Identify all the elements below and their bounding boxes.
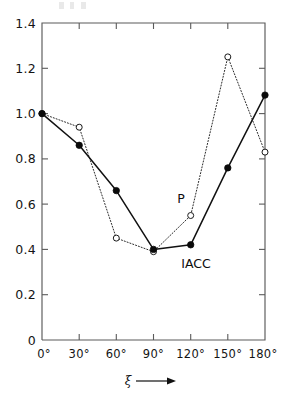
y-tick-label-0-6: 0.6 <box>15 197 36 212</box>
y-tick-label-1-2: 1.2 <box>15 61 36 76</box>
x-tick-label-90: 90° <box>143 347 164 361</box>
x-tick-label-0: 0° <box>37 347 51 361</box>
x-tick-label-180: 180° <box>249 347 278 361</box>
series-p-point-150 <box>225 54 231 60</box>
series-p-point-180 <box>262 149 268 155</box>
y-tick-label-0-2: 0.2 <box>15 287 36 302</box>
series-iacc-point-30 <box>76 142 82 148</box>
series-label-p: P <box>177 191 185 206</box>
series-iacc-point-150 <box>225 165 231 171</box>
series-iacc-line <box>42 95 265 249</box>
series-iacc-point-180 <box>262 92 268 98</box>
series-p-point-60 <box>113 235 119 241</box>
x-axis-ticks <box>79 23 228 340</box>
y-axis-tick-labels: 1.4 1.2 1.0 0.8 0.6 0.4 0.2 0 <box>15 16 36 348</box>
y-tick-label-0-8: 0.8 <box>15 151 36 166</box>
series-iacc-point-90 <box>150 246 156 252</box>
y-tick-label-1-4: 1.4 <box>15 16 36 31</box>
y-tick-label-0-4: 0.4 <box>15 242 36 257</box>
y-tick-label-1-0: 1.0 <box>15 106 36 121</box>
x-tick-label-120: 120° <box>176 347 205 361</box>
series-iacc-point-60 <box>113 187 119 193</box>
x-tick-label-60: 60° <box>106 347 127 361</box>
series-p-point-30 <box>76 124 82 130</box>
x-tick-label-150: 150° <box>213 347 242 361</box>
x-axis-title: ξ <box>125 374 133 388</box>
y-axis-ticks <box>42 68 48 294</box>
series-label-iacc: IACC <box>181 256 211 271</box>
plot-frame <box>42 23 265 340</box>
x-axis-title-group: ξ <box>125 374 176 388</box>
series-p-line <box>42 57 265 252</box>
chart-figure: 1.4 1.2 1.0 0.8 0.6 0.4 0.2 0 0° 30° 60°… <box>0 0 295 403</box>
x-axis-tick-labels: 0° 30° 60° 90° 120° 150° 180° <box>37 347 277 361</box>
x-tick-label-30: 30° <box>69 347 90 361</box>
series-iacc <box>39 92 268 253</box>
series-p <box>39 54 268 255</box>
line-chart: 1.4 1.2 1.0 0.8 0.6 0.4 0.2 0 0° 30° 60°… <box>0 0 295 403</box>
series-p-point-120 <box>188 213 194 219</box>
series-iacc-point-120 <box>188 242 194 248</box>
axis-frame-outline <box>42 23 265 340</box>
x-axis-arrow-head <box>167 378 176 385</box>
series-iacc-point-0 <box>39 110 45 116</box>
y-tick-label-0: 0 <box>28 333 36 348</box>
